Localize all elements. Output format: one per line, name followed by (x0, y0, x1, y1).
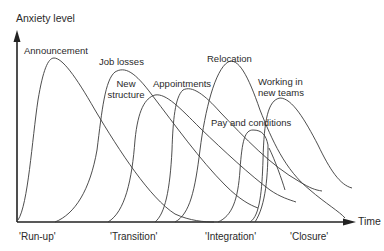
phase-integration: 'Integration' (205, 231, 256, 242)
x-axis-arrow-icon (343, 219, 356, 226)
x-axis-label: Time (358, 216, 381, 227)
diagram-canvas (0, 0, 384, 251)
label-pay-and-conditions: Pay and conditions (211, 117, 291, 128)
label-announcement: Announcement (24, 45, 88, 56)
curve-job-losses (55, 70, 258, 222)
curve-pay-and-conditions (218, 130, 268, 222)
phase-transition: 'Transition' (110, 231, 157, 242)
y-axis-label: Anxiety level (16, 13, 75, 24)
anxiety-diagram: Anxiety level Time 'Run-up' 'Transition'… (0, 0, 384, 251)
label-working-in-new-teams: Working in new teams (258, 76, 304, 98)
phase-closure: 'Closure' (290, 231, 328, 242)
y-axis-arrow-icon (14, 30, 21, 42)
phase-run-up: 'Run-up' (19, 231, 56, 242)
label-appointments: Appointments (153, 78, 211, 89)
label-job-losses: Job losses (99, 56, 144, 67)
curve-pay-and-conditions-tail (269, 148, 285, 190)
label-new-structure: New structure (106, 78, 146, 100)
label-relocation: Relocation (207, 53, 252, 64)
